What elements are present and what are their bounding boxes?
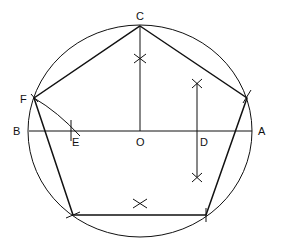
label-C: C — [136, 10, 144, 22]
label-O: O — [136, 136, 145, 148]
pentagon-construction-diagram: C F B E O D A — [0, 0, 281, 250]
label-F: F — [20, 93, 27, 105]
label-B: B — [13, 125, 20, 137]
label-A: A — [258, 125, 266, 137]
label-D: D — [200, 136, 208, 148]
label-E: E — [72, 136, 79, 148]
cross-mark-bottom-center — [133, 199, 147, 208]
